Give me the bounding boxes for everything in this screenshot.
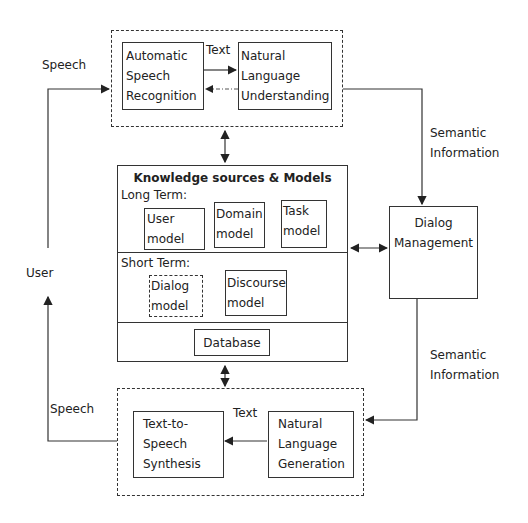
database-box: Database [194,329,270,356]
tts-label: Text-to- Speech Synthesis [143,414,201,474]
semantic-info-top-label: Semantic Information [430,123,499,163]
database-label: Database [195,333,269,353]
asr-nlu-edge-label: Text [206,40,230,60]
dialog-model-label: Dialog model [151,276,189,316]
task-model-label: Task model [283,201,320,241]
domain-model-label: Domain model [216,204,263,244]
dialog-management-box: Dialog Management [389,206,478,299]
asr-label: Automatic Speech Recognition [126,46,197,106]
discourse-model-box: Discourse model [225,270,287,316]
semantic-info-bottom-label: Semantic Information [430,345,499,385]
dialog-model-box: Dialog model [149,275,203,317]
user-model-label: User model [147,209,184,249]
asr-box: Automatic Speech Recognition [122,42,204,110]
user-label: User [26,263,53,283]
speech-out-label: Speech [50,399,94,419]
nlg-box: Natural Language Generation [268,411,354,478]
long-term-label: Long Term: [121,185,187,205]
speech-in-label: Speech [42,55,86,75]
short-db-divider [118,322,347,323]
tts-box: Text-to- Speech Synthesis [133,411,224,478]
domain-model-box: Domain model [214,202,265,248]
dialog-management-label: Dialog Management [390,213,477,253]
nlg-tts-edge-label: Text [233,403,257,423]
nlu-label: Natural Language Understanding [241,46,329,106]
discourse-model-label: Discourse model [227,273,286,313]
user-model-box: User model [144,208,205,250]
task-model-box: Task model [281,200,327,248]
nlu-box: Natural Language Understanding [238,42,332,110]
short-term-label: Short Term: [121,253,190,273]
knowledge-box: Knowledge sources & Models Long Term: Us… [117,165,348,362]
nlg-label: Natural Language Generation [278,414,345,474]
